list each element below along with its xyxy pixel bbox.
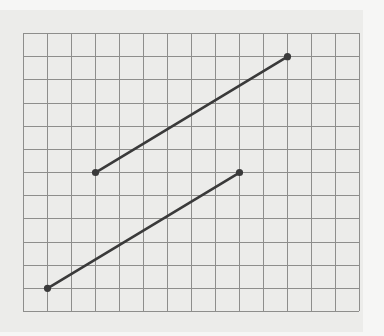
grid-lines: [23, 33, 360, 312]
endpoint-dot-start: [44, 285, 51, 292]
endpoint-dot-start: [92, 169, 99, 176]
figure-stage: Two line segments on a square grid: [0, 0, 384, 336]
endpoint-dot-end: [284, 53, 291, 60]
endpoint-dot-end: [236, 169, 243, 176]
grid-diagram: [0, 0, 384, 336]
